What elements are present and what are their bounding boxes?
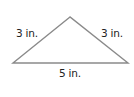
base-side-label: 5 in. [59, 67, 81, 79]
triangle-outline [13, 17, 128, 63]
triangle-diagram: 3 in. 3 in. 5 in. [0, 0, 134, 97]
left-side-label: 3 in. [16, 27, 38, 39]
triangle-shape [0, 0, 134, 97]
right-side-label: 3 in. [101, 27, 123, 39]
